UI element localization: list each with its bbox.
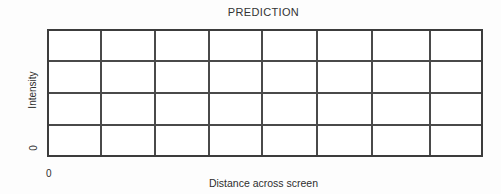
- y-axis-origin-label: 0: [28, 145, 39, 151]
- x-axis-label-text: Distance across screen: [209, 177, 318, 189]
- plot-area: [47, 29, 483, 157]
- x-axis-label: Distance across screen: [0, 177, 501, 189]
- y-axis-label: Intensity: [27, 71, 38, 108]
- chart-title: PREDICTION: [0, 6, 501, 18]
- horizontal-gridlines: [49, 61, 481, 125]
- chart-title-text: PREDICTION: [228, 6, 299, 18]
- prediction-chart-figure: PREDICTION Intensity 0 0 Distance: [0, 0, 501, 194]
- grid-lines: [49, 31, 481, 155]
